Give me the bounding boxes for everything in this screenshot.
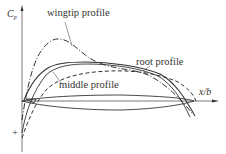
- x-axis-label: x/b: [199, 87, 211, 97]
- wingtip-profile-label: wingtip profile: [47, 8, 110, 19]
- middle-profile-label: middle profile: [59, 80, 119, 91]
- sign-marker: +: [12, 128, 18, 139]
- y-axis-subscript: p: [14, 14, 17, 20]
- airfoil-outline: [22, 95, 194, 110]
- pressure-distribution-diagram: [0, 0, 226, 154]
- middle-profile-curve-inner: [22, 64, 190, 133]
- y-axis-symbol: C: [7, 8, 14, 19]
- root-profile-label: root profile: [136, 57, 184, 68]
- y-axis-label: Cp: [7, 9, 17, 20]
- y-axis: [21, 5, 24, 152]
